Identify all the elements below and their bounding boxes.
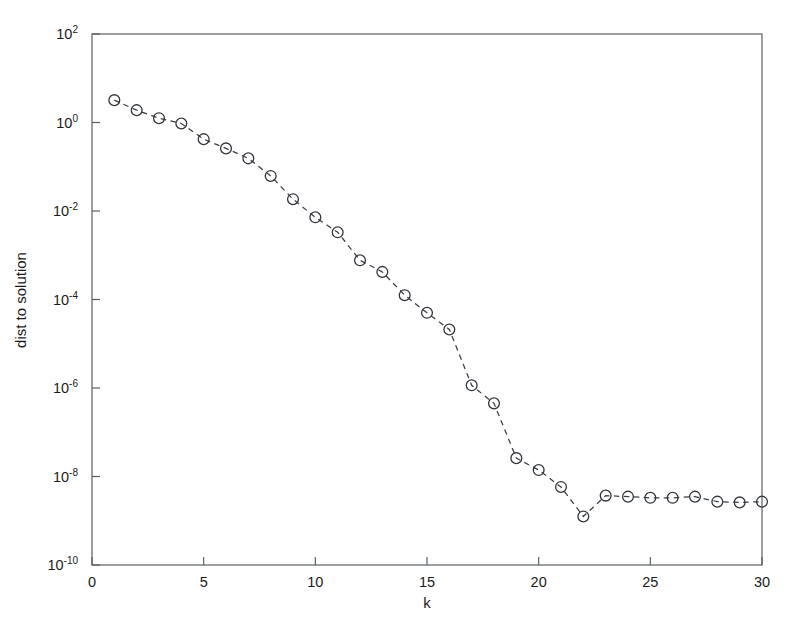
x-tick-label: 5 — [200, 574, 208, 590]
x-tick-label: 15 — [419, 574, 435, 590]
y-tick-label: 10-10 — [47, 555, 78, 573]
data-series-line — [114, 100, 762, 516]
x-tick-label: 30 — [754, 574, 770, 590]
data-point-marker — [310, 212, 321, 223]
data-point-marker — [198, 134, 209, 145]
data-point-marker — [288, 194, 299, 205]
data-point-marker — [265, 171, 276, 182]
x-tick-label: 10 — [307, 574, 323, 590]
y-tick-label: 100 — [56, 113, 78, 131]
y-tick-label: 10-4 — [53, 290, 78, 308]
y-tick-label: 10-2 — [53, 201, 78, 219]
y-tick-label: 10-8 — [53, 467, 78, 485]
figure-container: 10210010-210-410-610-810-10 051015202530… — [0, 0, 786, 634]
line-chart: 10210010-210-410-610-810-10 051015202530… — [0, 0, 786, 634]
data-point-marker — [355, 255, 366, 266]
x-tick-label: 25 — [642, 574, 658, 590]
x-axis-label: k — [423, 594, 431, 611]
x-axis-ticks: 051015202530 — [88, 557, 770, 590]
data-point-marker — [154, 113, 165, 124]
x-tick-label: 20 — [531, 574, 547, 590]
data-point-marker — [243, 153, 254, 164]
y-tick-label: 10-6 — [53, 378, 78, 396]
plot-frame — [92, 34, 762, 565]
data-point-marker — [399, 290, 410, 301]
x-tick-label: 0 — [88, 574, 96, 590]
y-tick-label: 102 — [56, 24, 78, 42]
y-axis-label: dist to solution — [12, 252, 29, 348]
data-point-marker — [533, 465, 544, 476]
data-series-markers — [109, 95, 767, 522]
